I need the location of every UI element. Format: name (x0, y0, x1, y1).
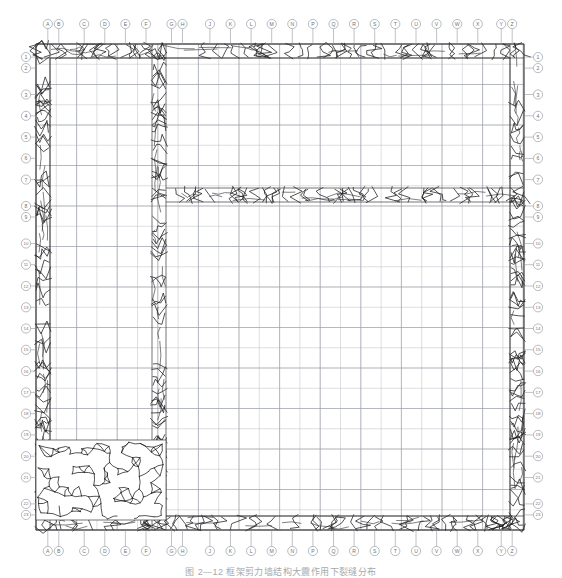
svg-text:21: 21 (536, 475, 541, 480)
svg-text:10: 10 (24, 241, 29, 246)
svg-text:9: 9 (537, 214, 540, 220)
figure-root: ABCDEFGHJKLMNPQRSTUVWXYZ ABCDEFGHJKLMNPQ… (0, 0, 562, 578)
svg-text:19: 19 (536, 432, 541, 437)
svg-text:18: 18 (536, 411, 541, 416)
bottom-axis: ABCDEFGHJKLMNPQRSTUVWXYZ (43, 530, 517, 556)
svg-text:1: 1 (25, 54, 28, 60)
svg-text:V: V (435, 21, 439, 27)
svg-text:G: G (169, 548, 173, 554)
svg-text:M: M (270, 21, 274, 27)
svg-text:R: R (352, 548, 356, 554)
svg-text:5: 5 (25, 134, 28, 140)
svg-text:B: B (57, 548, 61, 554)
svg-text:Y: Y (499, 21, 503, 27)
svg-text:P: P (311, 21, 315, 27)
svg-text:6: 6 (25, 155, 28, 161)
svg-text:S: S (373, 21, 377, 27)
crack-pattern-interior-transverse-wall (166, 186, 530, 203)
svg-text:K: K (229, 548, 233, 554)
svg-text:23: 23 (24, 512, 29, 517)
svg-text:22: 22 (24, 501, 29, 506)
svg-text:E: E (124, 548, 128, 554)
svg-text:N: N (290, 548, 294, 554)
svg-text:Q: Q (331, 548, 335, 554)
svg-text:J: J (209, 21, 212, 27)
svg-text:15: 15 (536, 347, 541, 352)
svg-text:14: 14 (24, 326, 29, 331)
svg-text:X: X (476, 548, 480, 554)
svg-text:10: 10 (536, 241, 541, 246)
svg-text:4: 4 (537, 113, 540, 119)
svg-text:8: 8 (25, 203, 28, 209)
svg-text:21: 21 (24, 475, 29, 480)
svg-text:X: X (476, 21, 480, 27)
svg-text:E: E (124, 21, 128, 27)
svg-text:15: 15 (24, 347, 29, 352)
svg-text:Z: Z (511, 21, 514, 27)
severe-damage-zone (36, 440, 166, 520)
svg-text:1: 1 (537, 54, 540, 60)
svg-text:11: 11 (24, 262, 29, 267)
svg-text:20: 20 (24, 454, 29, 459)
svg-text:M: M (270, 548, 274, 554)
svg-text:8: 8 (537, 203, 540, 209)
top-axis: ABCDEFGHJKLMNPQRSTUVWXYZ (43, 19, 517, 44)
svg-text:G: G (169, 21, 173, 27)
svg-text:A: A (46, 21, 50, 27)
left-axis: 1234567891011121314151617181920212223 (21, 53, 36, 520)
svg-text:12: 12 (24, 284, 29, 289)
svg-text:2: 2 (537, 65, 540, 71)
svg-text:P: P (311, 548, 315, 554)
svg-text:Q: Q (331, 21, 335, 27)
svg-text:W: W (455, 21, 460, 27)
svg-text:6: 6 (537, 155, 540, 161)
svg-text:A: A (46, 548, 50, 554)
svg-text:J: J (209, 548, 212, 554)
svg-text:L: L (250, 548, 253, 554)
svg-text:4: 4 (25, 113, 28, 119)
svg-text:F: F (144, 548, 147, 554)
right-axis: 1234567891011121314151617181920212223 (524, 53, 543, 520)
svg-text:W: W (455, 548, 460, 554)
svg-text:17: 17 (24, 390, 29, 395)
svg-text:18: 18 (24, 411, 29, 416)
svg-text:D: D (103, 21, 107, 27)
svg-text:13: 13 (24, 305, 29, 310)
svg-text:7: 7 (25, 177, 28, 183)
structural-crack-diagram: ABCDEFGHJKLMNPQRSTUVWXYZ ABCDEFGHJKLMNPQ… (0, 0, 562, 578)
svg-text:16: 16 (24, 369, 29, 374)
svg-text:D: D (103, 548, 107, 554)
svg-text:N: N (290, 21, 294, 27)
svg-text:K: K (229, 21, 233, 27)
svg-text:L: L (250, 21, 253, 27)
svg-text:20: 20 (536, 454, 541, 459)
svg-text:C: C (82, 21, 86, 27)
svg-text:U: U (414, 21, 418, 27)
svg-text:14: 14 (536, 326, 541, 331)
svg-text:V: V (435, 548, 439, 554)
svg-text:2: 2 (25, 65, 28, 71)
svg-text:B: B (57, 21, 61, 27)
svg-text:9: 9 (25, 214, 28, 220)
svg-text:U: U (414, 548, 418, 554)
svg-text:12: 12 (536, 284, 541, 289)
svg-text:Z: Z (511, 548, 514, 554)
svg-text:11: 11 (536, 262, 541, 267)
svg-text:19: 19 (24, 432, 29, 437)
svg-text:13: 13 (536, 305, 541, 310)
svg-text:16: 16 (536, 369, 541, 374)
svg-text:3: 3 (25, 92, 28, 98)
svg-text:22: 22 (536, 501, 541, 506)
svg-text:C: C (82, 548, 86, 554)
svg-text:17: 17 (536, 390, 541, 395)
figure-caption: 图 2—12 框架剪力墙结构大震作用下裂缝分布 (0, 566, 562, 578)
svg-text:7: 7 (537, 177, 540, 183)
svg-text:S: S (373, 548, 377, 554)
svg-text:5: 5 (537, 134, 540, 140)
svg-text:Y: Y (499, 548, 503, 554)
svg-text:H: H (181, 21, 185, 27)
svg-text:R: R (352, 21, 356, 27)
svg-text:3: 3 (537, 92, 540, 98)
svg-text:23: 23 (536, 512, 541, 517)
svg-text:H: H (181, 548, 185, 554)
